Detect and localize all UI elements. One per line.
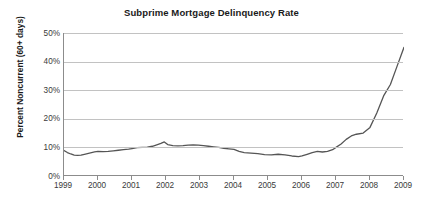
chart-title: Subprime Mortgage Delinquency Rate <box>0 7 423 18</box>
x-tick-mark <box>403 176 404 180</box>
y-axis-tick-labels: 0%10%20%30%40%50% <box>28 28 60 180</box>
x-tick-mark <box>63 176 64 180</box>
x-tick-mark <box>301 176 302 180</box>
y-axis-label: Percent Noncurrent (60+ days) <box>15 2 25 152</box>
x-tick-mark <box>335 176 336 180</box>
gridline <box>64 33 403 34</box>
y-tick-label: 20% <box>28 114 60 123</box>
x-tick-mark <box>131 176 132 180</box>
y-tick-label: 30% <box>28 86 60 95</box>
gridline <box>64 90 403 91</box>
y-tick-label: 50% <box>28 29 60 38</box>
x-axis-tick-labels: 1999200020012002200320042005200620072008… <box>63 181 404 195</box>
x-tick-mark <box>233 176 234 180</box>
x-tick-mark <box>267 176 268 180</box>
series-line-subprime-delinquency <box>64 47 404 156</box>
x-tick-mark <box>199 176 200 180</box>
y-tick-label: 0% <box>28 172 60 181</box>
gridline <box>64 119 403 120</box>
gridline <box>64 62 403 63</box>
chart-figure: Subprime Mortgage Delinquency Rate Perce… <box>0 0 423 212</box>
x-tick-mark <box>165 176 166 180</box>
y-tick-label: 40% <box>28 57 60 66</box>
x-tick-mark <box>97 176 98 180</box>
data-line-svg <box>64 33 404 176</box>
plot-area <box>63 33 403 176</box>
gridline <box>64 147 403 148</box>
y-tick-label: 10% <box>28 143 60 152</box>
x-tick-label: 2009 <box>383 181 423 191</box>
x-tick-mark <box>369 176 370 180</box>
